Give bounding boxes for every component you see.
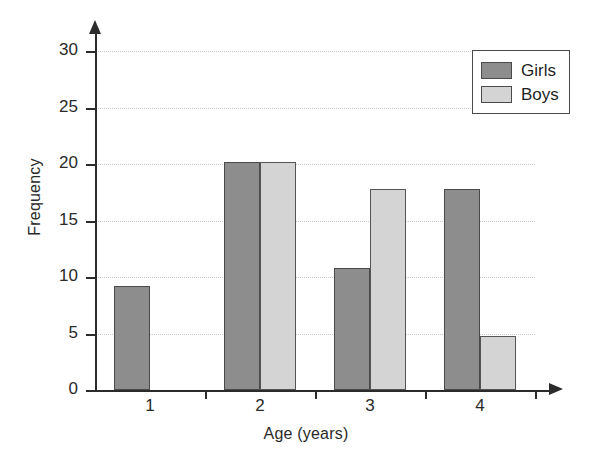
bar-girls-age-3 (334, 268, 370, 390)
x-tick-mark (205, 390, 207, 399)
x-tick-mark (425, 390, 427, 399)
y-tick-label: 5 (18, 323, 78, 343)
y-tick-label: 0 (18, 379, 78, 399)
x-axis-line (95, 390, 550, 392)
legend-item-girls: Girls (481, 58, 559, 82)
y-tick-mark (86, 164, 95, 166)
bar-boys-age-3 (370, 189, 406, 390)
x-tick-label: 4 (450, 396, 510, 416)
x-tick-label: 1 (120, 396, 180, 416)
legend-label: Girls (521, 62, 556, 79)
y-tick-mark (86, 277, 95, 279)
y-axis-arrow-icon (89, 20, 101, 34)
y-tick-mark (86, 390, 95, 392)
plot-area (95, 40, 535, 390)
x-tick-label: 2 (230, 396, 290, 416)
x-tick-mark (315, 390, 317, 399)
x-tick-mark (535, 390, 537, 399)
x-axis-arrow-icon (549, 383, 563, 395)
y-tick-mark (86, 334, 95, 336)
bar-boys-age-2 (260, 162, 296, 390)
x-axis-title: Age (years) (0, 425, 612, 443)
bar-chart: 051015202530 1234 Frequency Age (years) … (0, 0, 612, 464)
legend-swatch-boys (481, 86, 512, 103)
x-tick-label: 3 (340, 396, 400, 416)
y-tick-mark (86, 108, 95, 110)
y-tick-mark (86, 51, 95, 53)
y-axis-title: Frequency (26, 117, 44, 277)
bar-girls-age-4 (444, 189, 480, 390)
y-tick-label: 25 (18, 97, 78, 117)
bar-girls-age-1 (114, 286, 150, 390)
bar-girls-age-2 (224, 162, 260, 390)
chart-legend: GirlsBoys (472, 50, 570, 114)
legend-swatch-girls (481, 62, 512, 79)
bar-boys-age-4 (480, 336, 516, 390)
y-tick-label: 30 (18, 40, 78, 60)
legend-item-boys: Boys (481, 82, 559, 106)
y-tick-mark (86, 221, 95, 223)
legend-label: Boys (521, 86, 559, 103)
